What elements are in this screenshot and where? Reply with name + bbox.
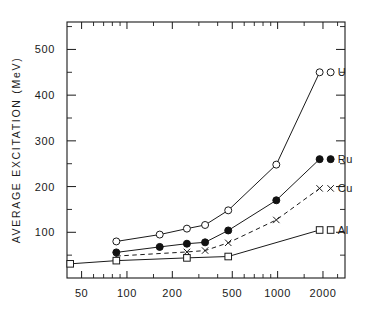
series-label-al: Al	[338, 224, 349, 236]
x-axis-tick-label: 50	[75, 287, 88, 299]
series-line-cu	[116, 188, 319, 256]
y-axis-tick-label: 300	[35, 135, 55, 147]
data-point-u	[183, 225, 190, 232]
y-axis-tick-label: 400	[35, 89, 55, 101]
x-axis-tick-label: 2000	[310, 287, 337, 299]
data-point-u	[156, 231, 163, 238]
series-line-al	[70, 230, 319, 264]
data-point-u	[225, 207, 232, 214]
y-axis-title: AVERAGE EXCITATION (MeV)	[10, 57, 22, 244]
series-label-marker-cu	[327, 185, 333, 191]
average-excitation-chart: 5010020050010002000100200300400500AVERAG…	[0, 0, 372, 321]
series-line-u	[116, 72, 319, 241]
series-label-ru: Ru	[338, 153, 353, 165]
x-axis-tick-label: 100	[117, 287, 137, 299]
data-point-ru	[316, 156, 323, 163]
series-label-cu: Cu	[338, 182, 353, 194]
y-axis-tick-label: 100	[35, 226, 55, 238]
series-label-marker-al	[327, 227, 334, 234]
data-point-ru	[225, 227, 232, 234]
data-point-cu	[273, 217, 279, 223]
x-axis-tick-label: 500	[222, 287, 242, 299]
series-label-marker-u	[327, 69, 334, 76]
y-axis-tick-label: 500	[35, 43, 55, 55]
chart-figure: 5010020050010002000100200300400500AVERAG…	[0, 0, 372, 321]
data-point-u	[273, 161, 280, 168]
data-point-al	[225, 253, 232, 260]
data-point-al	[184, 255, 191, 262]
data-point-ru	[202, 239, 209, 246]
data-point-u	[113, 238, 120, 245]
data-point-ru	[273, 197, 280, 204]
x-axis-tick-label: 1000	[264, 287, 291, 299]
data-point-ru	[113, 249, 120, 256]
data-point-al	[67, 261, 74, 268]
data-point-cu	[225, 240, 231, 246]
data-point-u	[202, 221, 209, 228]
y-axis-tick-label: 200	[35, 181, 55, 193]
data-point-u	[316, 69, 323, 76]
series-label-marker-ru	[327, 156, 334, 163]
series-label-u: U	[338, 66, 347, 78]
data-point-cu	[316, 185, 322, 191]
data-point-ru	[156, 243, 163, 250]
data-point-cu	[202, 247, 208, 253]
data-point-ru	[183, 240, 190, 247]
data-point-al	[316, 227, 323, 234]
x-axis-tick-label: 200	[162, 287, 182, 299]
data-point-al	[113, 257, 120, 264]
